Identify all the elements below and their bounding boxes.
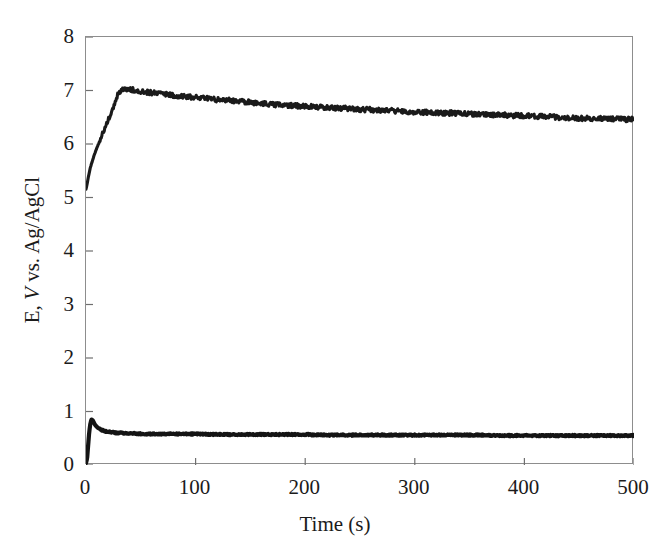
y-tick-label: 3 [44,293,74,314]
x-tick-label: 200 [288,477,320,498]
y-tick-label: 1 [44,400,74,421]
plot-area [85,36,633,464]
x-tick-label: 0 [80,477,91,498]
y-tick-label: 2 [44,347,74,368]
x-tick-label: 400 [508,477,540,498]
x-axis-title: Time (s) [0,512,670,537]
data-series-upper-trace [86,88,634,189]
plot-canvas [86,37,634,465]
y-tick-label: 5 [44,186,74,207]
x-tick-label: 500 [617,477,649,498]
y-axis-title: E, V vs. Ag/AgCl [20,177,45,323]
y-tick-label: 8 [44,26,74,47]
x-tick-label: 100 [179,477,211,498]
chart-figure: E, V vs. Ag/AgCl 012345678 0100200300400… [0,0,670,557]
x-tick-label: 300 [398,477,430,498]
y-axis-title-post: vs. Ag/AgCl [20,177,44,287]
tick-marks [86,37,634,465]
y-axis-title-container: E, V vs. Ag/AgCl [18,36,46,464]
y-axis-title-pre: E, [20,300,44,323]
y-tick-label: 6 [44,133,74,154]
data-series-group [86,88,634,463]
y-tick-label: 0 [44,454,74,475]
y-tick-label: 4 [44,240,74,261]
y-tick-label: 7 [44,79,74,100]
y-axis-title-italic: V [20,287,44,300]
data-series-lower-trace [86,420,634,463]
